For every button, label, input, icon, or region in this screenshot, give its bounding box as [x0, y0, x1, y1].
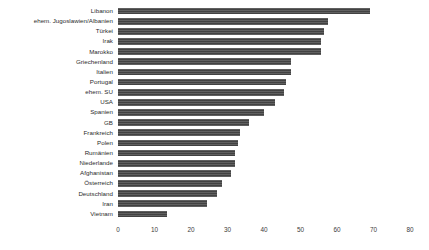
category-label-row: Türkei [0, 26, 113, 36]
bar [118, 180, 222, 187]
category-label-row: Griechenland [0, 57, 113, 67]
table-row [118, 77, 410, 87]
category-label: Spanien [90, 107, 113, 117]
plot-area [118, 6, 410, 219]
category-label: Vietnam [90, 209, 113, 219]
category-label: Afghanistan [80, 168, 113, 178]
category-label: Frankreich [84, 128, 113, 138]
bar [118, 69, 291, 76]
x-tick-label: 40 [260, 225, 267, 235]
bar-track [118, 158, 410, 168]
bar [118, 79, 286, 86]
bar-track [118, 26, 410, 36]
bar [118, 150, 235, 157]
bar [118, 119, 249, 126]
table-row [118, 178, 410, 188]
category-label: ehem. Jugoslawien/Albanien [34, 16, 113, 26]
category-label: Türkei [96, 26, 113, 36]
bar [118, 48, 321, 55]
bar [118, 129, 240, 136]
table-row [118, 148, 410, 158]
category-label-row: GB [0, 118, 113, 128]
category-label-row: Italien [0, 67, 113, 77]
table-row [118, 107, 410, 117]
category-label-row: Marokko [0, 47, 113, 57]
bar [118, 89, 284, 96]
bar-track [118, 67, 410, 77]
table-row [118, 6, 410, 16]
category-label-row: USA [0, 97, 113, 107]
bar-track [118, 107, 410, 117]
bar [118, 190, 217, 197]
category-label-row: Niederlande [0, 158, 113, 168]
category-label-row: Vietnam [0, 209, 113, 219]
bar-track [118, 138, 410, 148]
bar-track [118, 57, 410, 67]
category-label-row: Rumänien [0, 148, 113, 158]
category-label-row: Polen [0, 138, 113, 148]
category-label: Niederlande [79, 158, 113, 168]
bar-track [118, 189, 410, 199]
table-row [118, 189, 410, 199]
category-label: USA [100, 97, 113, 107]
bar [118, 170, 231, 177]
table-row [118, 118, 410, 128]
table-row [118, 158, 410, 168]
category-label: Österreich [84, 178, 113, 188]
x-tick-label: 80 [406, 225, 413, 235]
table-row [118, 199, 410, 209]
table-row [118, 67, 410, 77]
bar-track [118, 6, 410, 16]
table-row [118, 57, 410, 67]
category-label: Iran [102, 199, 113, 209]
x-axis-line [118, 219, 410, 221]
bar [118, 109, 264, 116]
category-label-row: Libanon [0, 6, 113, 16]
x-tick-label: 0 [116, 225, 120, 235]
bar-track [118, 118, 410, 128]
bar [118, 8, 370, 15]
bar [118, 211, 167, 218]
bar-track [118, 128, 410, 138]
category-label: Polen [97, 138, 113, 148]
category-label: Portugal [90, 77, 113, 87]
bar-track [118, 178, 410, 188]
x-tick-label: 20 [187, 225, 194, 235]
category-label-row: Deutschland [0, 189, 113, 199]
x-axis-tick-labels: 01020304050607080 [0, 225, 429, 239]
category-label: Italien [96, 67, 113, 77]
table-row [118, 26, 410, 36]
bar-track [118, 47, 410, 57]
bar-track [118, 168, 410, 178]
category-label: Irak [103, 36, 113, 46]
x-tick-label: 30 [224, 225, 231, 235]
category-label-row: Spanien [0, 107, 113, 117]
bar-chart: Libanonehem. Jugoslawien/AlbanienTürkeiI… [0, 0, 429, 250]
category-label-row: ehem. SU [0, 87, 113, 97]
bar [118, 18, 328, 25]
category-label: Marokko [89, 47, 113, 57]
x-tick-label: 70 [370, 225, 377, 235]
category-label-row: Afghanistan [0, 168, 113, 178]
bar-track [118, 209, 410, 219]
category-label: Libanon [91, 6, 113, 16]
table-row [118, 36, 410, 46]
table-row [118, 47, 410, 57]
category-label-row: Österreich [0, 178, 113, 188]
bar [118, 99, 275, 106]
bar [118, 28, 324, 35]
bar [118, 140, 238, 147]
table-row [118, 128, 410, 138]
bar [118, 200, 207, 207]
table-row [118, 138, 410, 148]
category-label-row: Iran [0, 199, 113, 209]
bar [118, 38, 321, 45]
bar [118, 58, 291, 65]
table-row [118, 97, 410, 107]
bar-track [118, 97, 410, 107]
bar-track [118, 16, 410, 26]
category-label: Rumänien [85, 148, 113, 158]
bar-track [118, 77, 410, 87]
table-row [118, 87, 410, 97]
bar-track [118, 199, 410, 209]
